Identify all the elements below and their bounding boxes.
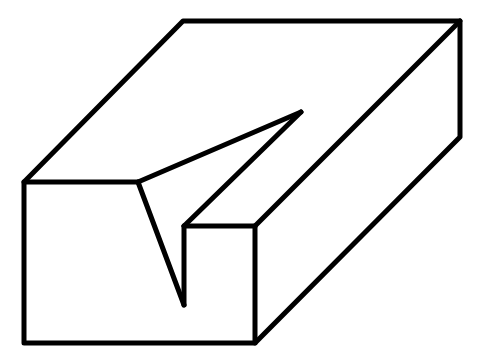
notch-left-top-edge: [138, 112, 301, 182]
notched-block-drawing: [0, 0, 480, 362]
notch-front-slant: [138, 182, 184, 305]
notch-apex-back-edge: [184, 112, 301, 226]
